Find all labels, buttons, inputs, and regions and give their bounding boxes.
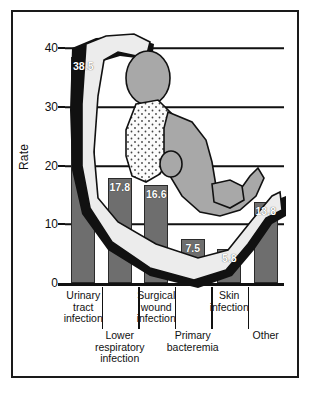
gridline	[65, 223, 284, 225]
y-tick-label: 20	[24, 159, 58, 173]
bar	[71, 57, 95, 283]
y-axis-title: Rate	[17, 127, 31, 187]
patient-leg	[212, 180, 244, 208]
patient-body	[164, 112, 264, 216]
patient-head	[126, 51, 170, 105]
bar	[108, 178, 132, 283]
y-tick-mark	[58, 106, 65, 108]
y-tick-mark	[58, 165, 65, 167]
x-axis-category-label: Primary bacteremia	[158, 330, 228, 353]
x-axis-category-label: Urinary tract infection	[48, 290, 118, 325]
x-axis-category-label: Lower respiratory infection	[85, 330, 155, 365]
x-axis-category-label: Other	[231, 330, 301, 342]
y-tick-mark	[58, 223, 65, 225]
gridline	[65, 165, 284, 167]
y-tick-mark	[58, 47, 65, 49]
bar-value-label: 16.6	[144, 188, 168, 200]
gridline	[65, 106, 284, 108]
bar-value-label: 13.8	[254, 205, 278, 217]
patient-gown	[126, 100, 176, 182]
bar-value-label: 5.8	[217, 252, 241, 264]
bar-chart: Rate 40 30 20 10 0	[0, 0, 313, 396]
bar-value-label: 7.5	[181, 242, 205, 254]
x-axis-baseline	[58, 283, 284, 286]
y-tick-label: 10	[24, 217, 58, 231]
patient-arm	[160, 151, 182, 177]
x-axis-category-label: Skin infection	[194, 290, 264, 313]
bar-value-label: 38.5	[71, 60, 95, 72]
x-axis-category-label: Surgical wound infection	[121, 290, 191, 325]
y-tick-label: 0	[24, 276, 58, 290]
y-tick-label: 40	[24, 41, 58, 55]
gridline	[65, 47, 284, 49]
y-tick-label: 30	[24, 100, 58, 114]
bar-value-label: 17.8	[108, 181, 132, 193]
